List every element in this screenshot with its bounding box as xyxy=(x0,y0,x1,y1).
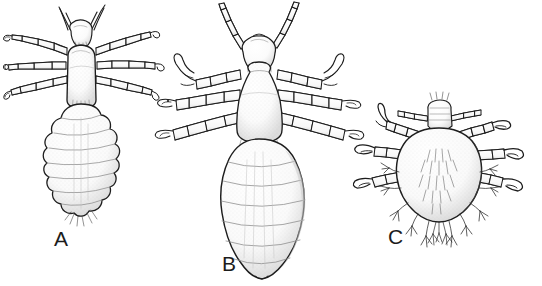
louse-plate-drawing xyxy=(0,0,542,286)
figure-label-a: A xyxy=(54,228,69,249)
figure-label-c: C xyxy=(388,226,404,247)
figure-label-b: B xyxy=(222,253,237,274)
illustration-plate: A B C xyxy=(0,0,542,286)
